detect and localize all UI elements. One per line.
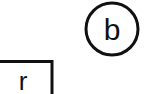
diagram-svg: b r — [0, 0, 147, 94]
rect-node-r-label: r — [19, 66, 28, 94]
circle-node-b-label: b — [104, 13, 121, 46]
diagram-canvas: b r — [0, 0, 147, 94]
